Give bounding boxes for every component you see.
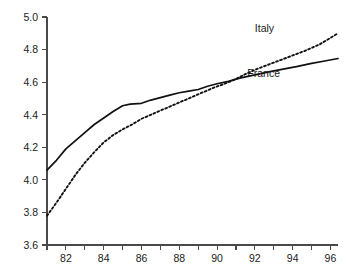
y-tick-label: 3.8 <box>23 206 38 218</box>
y-tick-label: 5.0 <box>23 11 38 23</box>
series-line-italy <box>47 33 338 215</box>
y-tick-label: 3.6 <box>23 239 38 251</box>
y-tick-label: 4.6 <box>23 76 38 88</box>
x-tick-label: 84 <box>98 252 110 264</box>
series-label-italy: Italy <box>255 22 275 34</box>
x-tick-label: 90 <box>211 252 223 264</box>
x-tick-label: 94 <box>287 252 299 264</box>
x-tick-label: 86 <box>136 252 148 264</box>
y-tick-label: 4.2 <box>23 141 38 153</box>
series-labels: FranceItaly <box>247 22 280 79</box>
x-axis: 8284868890929496 <box>47 245 338 264</box>
y-tick-label: 4.4 <box>23 109 38 121</box>
series-container <box>47 33 338 215</box>
x-tick-label: 96 <box>325 252 337 264</box>
x-tick-label: 82 <box>60 252 72 264</box>
y-tick-label: 4.8 <box>23 43 38 55</box>
y-axis: 3.63.84.04.24.44.64.85.0 <box>23 11 47 251</box>
line-chart: 3.63.84.04.24.44.64.85.0 828486889092949… <box>0 0 356 275</box>
x-tick-label: 92 <box>249 252 261 264</box>
series-label-france: France <box>247 67 280 79</box>
series-line-france <box>47 59 338 171</box>
y-tick-label: 4.0 <box>23 174 38 186</box>
chart-svg: 3.63.84.04.24.44.64.85.0 828486889092949… <box>0 0 356 275</box>
x-tick-label: 88 <box>173 252 185 264</box>
